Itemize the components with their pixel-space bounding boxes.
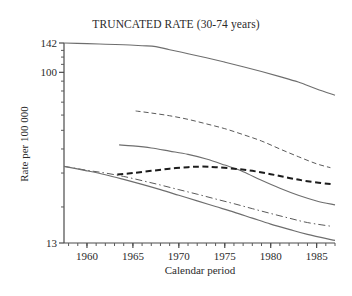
series-line: [64, 166, 330, 226]
y-axis: 14210013: [41, 37, 65, 249]
x-tick-label: 1980: [260, 250, 283, 262]
series-line: [64, 43, 335, 95]
x-tick-label: 1970: [168, 250, 191, 262]
series-line: [64, 166, 335, 240]
chart-container: TRUNCATED RATE (30-74 years) Rate per 10…: [0, 0, 352, 296]
x-tick-label: 1975: [214, 250, 237, 262]
series-line: [119, 145, 335, 205]
plot-area: 14210013 196019651970197519801985: [0, 0, 352, 296]
y-tick-label: 100: [41, 66, 58, 78]
y-tick-label: 142: [41, 37, 58, 49]
data-series-group: [64, 43, 335, 240]
x-tick-label: 1960: [76, 250, 99, 262]
x-axis: 196019651970197519801985: [64, 243, 335, 262]
series-line: [117, 167, 333, 185]
y-tick-label: 13: [46, 237, 58, 249]
x-tick-label: 1985: [306, 250, 329, 262]
x-tick-label: 1965: [122, 250, 145, 262]
series-line: [136, 111, 331, 168]
